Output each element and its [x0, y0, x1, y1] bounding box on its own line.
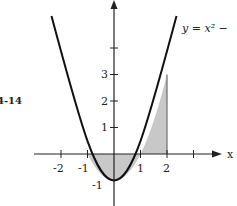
x-axis-arrow-icon [212, 151, 222, 158]
x-tick-label: -2 [53, 162, 64, 175]
y-tick-label: 3 [101, 68, 108, 81]
figure-number: 4-14 [0, 95, 22, 106]
x-tick-label: 2 [163, 162, 170, 175]
x-axis-label: x [227, 148, 234, 161]
x-tick-label: 1 [137, 162, 144, 175]
y-tick-label: -1 [92, 179, 103, 192]
y-tick-label: 2 [101, 95, 108, 108]
y-tick-label: 1 [101, 121, 108, 134]
curve-label: y = x² − [181, 22, 228, 35]
graph: -2 -1 1 2 -1 1 2 3 x y = x² − 4-14 [0, 0, 237, 206]
x-tick-label: -1 [78, 162, 89, 175]
y-axis-arrow-icon [111, 0, 118, 9]
